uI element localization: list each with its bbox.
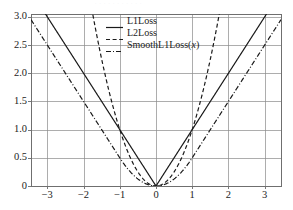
x-tick-label: 0 <box>145 190 167 200</box>
legend-line-sample <box>106 17 123 25</box>
y-tick-label: 0.5 <box>1 152 27 162</box>
legend-item-smoothl1loss[interactable]: SmoothL1Loss(x) <box>106 39 202 51</box>
x-tick-label: −3 <box>36 190 58 200</box>
x-tick-label: 1 <box>181 190 203 200</box>
x-tick-label: −2 <box>73 190 95 200</box>
legend-item-l2loss[interactable]: L2Loss <box>106 27 202 39</box>
y-tick-label: 0 <box>1 181 27 191</box>
loss-function-chart: . . . . . . . . . . . 3.02.52.01.51.00.5… <box>0 0 293 210</box>
legend-line-sample <box>106 29 123 37</box>
y-tick-label: 1.5 <box>1 96 27 106</box>
legend-label: L1Loss <box>127 16 157 26</box>
legend-label: SmoothL1Loss(x) <box>127 40 199 50</box>
legend: L1LossL2LossSmoothL1Loss(x) <box>106 15 202 51</box>
y-tick-label: 3.0 <box>1 11 27 21</box>
y-tick-label: 2.5 <box>1 40 27 50</box>
x-tick-label: 2 <box>217 190 239 200</box>
y-tick-label: 1.0 <box>1 124 27 134</box>
legend-item-l1loss[interactable]: L1Loss <box>106 15 202 27</box>
x-tick-label: −1 <box>109 190 131 200</box>
legend-label: L2Loss <box>127 28 157 38</box>
y-tick-label: 2.0 <box>1 68 27 78</box>
x-tick-label: 3 <box>254 190 276 200</box>
legend-line-sample <box>106 41 123 49</box>
